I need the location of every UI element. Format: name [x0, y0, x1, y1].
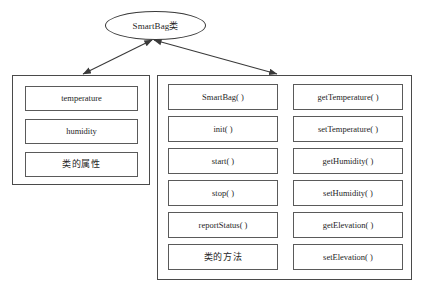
method-cell[interactable]: SmartBag( ) [168, 84, 278, 110]
method-cell[interactable]: reportStatus( ) [168, 212, 278, 238]
connector-root-to-methods [154, 40, 277, 74]
attribute-label: 类的属性 [62, 160, 100, 169]
method-label: getHumidity( ) [323, 157, 374, 166]
attribute-label: humidity [66, 127, 97, 136]
method-label: getElevation( ) [323, 221, 374, 230]
connector-root-to-attributes [83, 40, 152, 74]
method-label: stop( ) [212, 189, 234, 198]
method-cell[interactable]: getElevation( ) [293, 212, 403, 238]
method-label: 类的方法 [204, 253, 242, 262]
root-node-label: SmartBag类 [133, 19, 179, 32]
method-cell[interactable]: setHumidity( ) [293, 180, 403, 206]
attributes-group-box: temperature humidity 类的属性 [12, 75, 150, 185]
method-cell[interactable]: getHumidity( ) [293, 148, 403, 174]
method-cell[interactable]: 类的方法 [168, 244, 278, 270]
class-diagram: SmartBag类 temperature humidity 类的属性 Smar… [0, 0, 423, 295]
method-label: setHumidity( ) [323, 189, 373, 198]
method-label: init( ) [213, 125, 232, 134]
method-cell[interactable]: start( ) [168, 148, 278, 174]
method-label: getTemperature( ) [318, 93, 379, 102]
method-label: setElevation( ) [323, 253, 373, 262]
attribute-cell[interactable]: 类的属性 [25, 152, 138, 177]
method-label: start( ) [212, 157, 234, 166]
method-cell[interactable]: init( ) [168, 116, 278, 142]
attribute-cell[interactable]: humidity [25, 119, 138, 144]
attribute-cell[interactable]: temperature [25, 86, 138, 111]
attribute-label: temperature [61, 94, 102, 103]
methods-group-box: SmartBag( ) init( ) start( ) stop( ) rep… [157, 75, 412, 280]
method-label: setTemperature( ) [318, 125, 378, 134]
method-cell[interactable]: setElevation( ) [293, 244, 403, 270]
root-node-smartbag[interactable]: SmartBag类 [105, 11, 206, 40]
method-cell[interactable]: stop( ) [168, 180, 278, 206]
method-label: reportStatus( ) [199, 221, 248, 230]
method-cell[interactable]: getTemperature( ) [293, 84, 403, 110]
method-label: SmartBag( ) [202, 93, 244, 102]
method-cell[interactable]: setTemperature( ) [293, 116, 403, 142]
